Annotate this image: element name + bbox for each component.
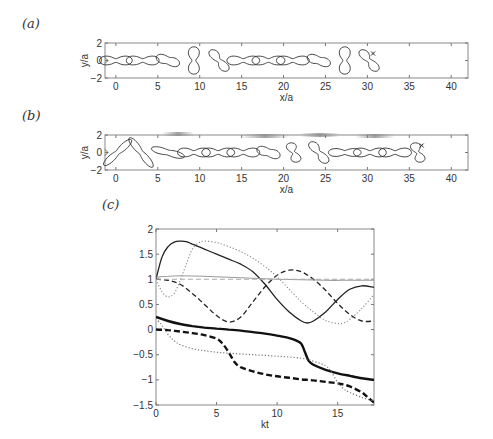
x-tick-label: 25 xyxy=(320,173,332,184)
x-tick-label: 40 xyxy=(446,173,458,184)
chart-panel-a: 0510152025303540−202x/ay/a xyxy=(79,38,468,104)
x-axis-label: x/a xyxy=(280,92,294,103)
figure-canvas: 0510152025303540−202x/ay/a 0510152025303… xyxy=(0,0,493,439)
x-tick-label: 15 xyxy=(332,408,344,419)
chart-panel-b: 0510152025303540−202x/ay/a xyxy=(79,130,468,196)
x-tick-label: 5 xyxy=(155,173,161,184)
y-axis-label: y/a xyxy=(79,145,90,159)
y-tick-label: −2 xyxy=(91,165,103,176)
x-tick-label: 10 xyxy=(194,81,206,92)
body-snapshot-outline xyxy=(178,148,211,157)
plot-frame xyxy=(156,229,374,405)
y-tick-label: 2 xyxy=(147,224,153,235)
y-tick-label: 1 xyxy=(147,274,153,285)
body-snapshot-outline xyxy=(276,56,309,65)
x-tick-label: 0 xyxy=(113,173,119,184)
x-tick-label: 35 xyxy=(404,173,416,184)
series-line-gray-dotted-thin xyxy=(156,241,374,324)
x-tick-label: 5 xyxy=(214,408,220,419)
x-axis-label: kt xyxy=(261,419,269,430)
x-axis-label: x/a xyxy=(280,184,294,195)
series-line-black-solid-thin xyxy=(156,241,374,323)
x-tick-label: 15 xyxy=(236,173,248,184)
y-tick-label: 0 xyxy=(147,324,153,335)
tracer-marker-icon xyxy=(371,52,375,56)
series-line-gray-dotted-lower xyxy=(156,319,374,401)
y-tick-label: −1 xyxy=(142,374,154,385)
body-snapshot-outline xyxy=(328,149,361,157)
plot-frame xyxy=(105,135,468,170)
y-tick-label: −0.5 xyxy=(133,349,153,360)
body-snapshot-outline xyxy=(339,47,350,74)
body-snapshot-outline xyxy=(209,50,229,72)
y-axis-label: y/a xyxy=(79,53,90,67)
x-tick-label: 15 xyxy=(236,81,248,92)
x-tick-label: 40 xyxy=(446,81,458,92)
x-tick-label: 30 xyxy=(362,173,374,184)
x-tick-label: 0 xyxy=(153,408,159,419)
x-tick-label: 10 xyxy=(272,408,284,419)
body-snapshot-outline xyxy=(309,142,329,164)
body-snapshot-outline xyxy=(188,47,199,74)
body-snapshot-outline xyxy=(126,56,159,65)
x-tick-label: 20 xyxy=(278,173,290,184)
x-tick-label: 0 xyxy=(113,81,119,92)
body-snapshot-outline xyxy=(359,50,379,72)
body-snapshot-outline xyxy=(227,148,260,157)
x-tick-label: 10 xyxy=(194,173,206,184)
x-tick-label: 25 xyxy=(320,81,332,92)
y-tick-label: 0.5 xyxy=(139,299,153,310)
y-tick-label: 1.5 xyxy=(139,249,153,260)
body-snapshot-outline xyxy=(100,56,133,65)
body-snapshot-outline xyxy=(151,147,184,159)
series-line-black-dashed-thick xyxy=(156,330,374,403)
x-tick-label: 30 xyxy=(362,81,374,92)
body-snapshot-outline xyxy=(257,146,280,158)
body-snapshot-outline xyxy=(202,148,235,157)
body-snapshot-outline xyxy=(286,143,301,162)
body-snapshot-outline xyxy=(410,143,425,162)
y-tick-label: 2 xyxy=(96,130,102,141)
y-tick-label: −2 xyxy=(91,73,103,84)
x-tick-label: 20 xyxy=(278,81,290,92)
x-tick-label: 35 xyxy=(404,81,416,92)
body-snapshot-outline xyxy=(307,54,330,66)
body-snapshot-outline xyxy=(156,54,179,66)
y-tick-label: 2 xyxy=(96,38,102,49)
body-snapshot-outline xyxy=(129,138,153,168)
y-tick-label: −1.5 xyxy=(133,400,153,411)
series-line-black-solid-thick xyxy=(156,317,374,380)
x-tick-label: 5 xyxy=(155,81,161,92)
y-tick-label: 0 xyxy=(96,147,102,158)
chart-panel-c: 051015−1.5−1−0.500.511.52kt xyxy=(133,224,374,431)
